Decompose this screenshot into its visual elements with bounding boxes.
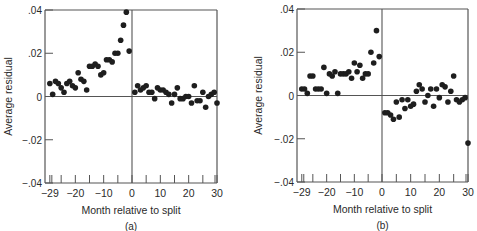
data-point	[462, 95, 468, 101]
data-point	[371, 60, 377, 66]
data-point	[200, 89, 206, 95]
y-tick-label: −.02	[274, 134, 294, 145]
data-point	[95, 63, 101, 69]
data-point	[321, 65, 327, 71]
data-point	[354, 69, 360, 75]
data-point	[428, 86, 434, 92]
x-tick-label: −10	[345, 186, 363, 198]
y-tick-label: 0	[288, 91, 294, 102]
data-point	[118, 37, 124, 43]
data-point	[365, 71, 371, 77]
x-axis-label: Month relative to split	[81, 204, 180, 216]
data-point	[47, 81, 53, 87]
data-point	[318, 86, 324, 92]
data-point	[169, 100, 175, 106]
data-point	[448, 88, 454, 94]
data-point	[434, 86, 440, 92]
scatter-plot-a: .04.020−.02−.04−29−20−100102030Month rel…	[0, 0, 240, 231]
data-point	[402, 106, 408, 112]
data-point	[305, 91, 311, 97]
data-point	[391, 116, 397, 122]
data-point	[124, 9, 130, 15]
data-point	[143, 83, 149, 89]
x-axis-label: Month relative to split	[333, 203, 432, 215]
x-tick-label: 0	[129, 187, 135, 199]
data-point	[172, 92, 178, 98]
data-points	[47, 9, 220, 110]
data-point	[101, 70, 107, 76]
data-point	[189, 100, 195, 106]
data-point	[451, 73, 457, 79]
data-point	[399, 97, 405, 103]
data-point	[192, 83, 198, 89]
x-tick-label: −20	[318, 186, 336, 198]
data-point	[81, 79, 87, 85]
panel-label: (b)	[376, 220, 388, 231]
data-points	[299, 28, 471, 146]
data-point	[349, 75, 355, 81]
scatter-plot-b: .04.020−.02−.04−29−20−100102030Month rel…	[240, 0, 477, 231]
data-point	[465, 140, 471, 146]
data-point	[73, 85, 79, 91]
data-point	[445, 99, 451, 105]
data-point	[335, 91, 341, 97]
data-point	[121, 22, 127, 28]
data-point	[152, 96, 158, 102]
data-point	[310, 73, 316, 79]
data-point	[186, 94, 192, 100]
x-tick-label: 0	[379, 186, 385, 198]
x-tick-label: −20	[66, 187, 84, 199]
data-point	[368, 49, 374, 55]
panel-label: (a)	[125, 221, 137, 231]
data-point	[115, 50, 121, 56]
data-point	[75, 70, 81, 76]
x-tick-label: 10	[154, 187, 166, 199]
data-point	[396, 114, 402, 120]
y-axis-label: Average residual	[252, 56, 264, 135]
panel-a: .04.020−.02−.04−29−20−100102030Month rel…	[0, 0, 240, 231]
data-point	[175, 85, 181, 91]
y-tick-label: −.04	[274, 177, 294, 188]
data-point	[405, 97, 411, 103]
data-point	[419, 86, 425, 92]
data-point	[422, 99, 428, 105]
y-axis-label: Average residual	[2, 57, 14, 136]
y-axis: .04.020−.02−.04	[274, 4, 305, 188]
data-point	[352, 60, 358, 66]
data-point	[442, 84, 448, 90]
y-tick-label: .04	[280, 4, 294, 15]
data-point	[357, 62, 363, 68]
data-point	[203, 105, 209, 111]
data-point	[166, 92, 172, 98]
data-point	[332, 69, 338, 75]
data-point	[214, 100, 220, 106]
y-axis: .04.020−.02−.04	[22, 5, 53, 189]
data-point	[126, 48, 132, 54]
x-axis: −29−20−100102030	[41, 175, 223, 199]
panel-b: .04.020−.02−.04−29−20−100102030Month rel…	[240, 0, 477, 231]
x-tick-label: −29	[41, 187, 59, 199]
data-point	[211, 89, 217, 95]
data-point	[437, 95, 443, 101]
data-point	[149, 89, 155, 95]
data-point	[84, 87, 90, 93]
data-point	[374, 28, 380, 34]
data-point	[197, 98, 203, 104]
y-tick-label: −.04	[22, 178, 42, 189]
x-tick-label: 20	[183, 187, 195, 199]
y-tick-label: −.02	[22, 135, 42, 146]
data-point	[109, 59, 115, 65]
x-tick-label: −29	[293, 186, 311, 198]
y-tick-label: 0	[36, 92, 42, 103]
y-tick-label: .02	[280, 47, 294, 58]
x-tick-label: −10	[95, 187, 113, 199]
y-tick-label: .02	[28, 48, 42, 59]
data-point	[324, 91, 330, 97]
x-tick-label: 10	[405, 186, 417, 198]
data-point	[414, 88, 420, 94]
x-tick-label: 20	[433, 186, 445, 198]
x-tick-label: 30	[211, 187, 223, 199]
data-point	[132, 89, 138, 95]
data-point	[346, 69, 352, 75]
x-axis: −29−20−100102030	[293, 174, 474, 198]
